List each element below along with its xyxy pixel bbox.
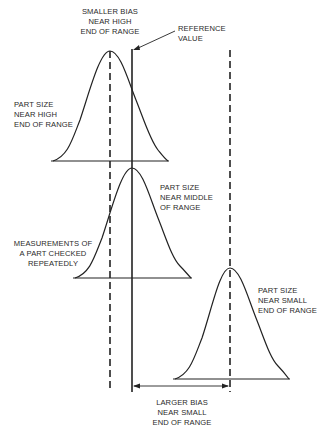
bias-arrowhead-right	[222, 384, 229, 389]
label-larger-bias: LARGER BIAS NEAR SMALL END OF RANGE	[148, 398, 216, 428]
label-measurements: MEASUREMENTS OF A PART CHECKED REPEATEDL…	[10, 239, 96, 269]
label-part-size-high: PART SIZE NEAR HIGH END OF RANGE	[14, 100, 73, 130]
label-smaller-bias: SMALLER BIAS NEAR HIGH END OF RANGE	[78, 7, 142, 37]
label-part-size-middle: PART SIZE NEAR MIDDLE OF RANGE	[160, 183, 213, 213]
bias-diagram	[0, 0, 329, 437]
distribution-curve-small	[175, 268, 289, 379]
reference-arrowhead	[133, 45, 140, 50]
label-part-size-small: PART SIZE NEAR SMALL END OF RANGE	[258, 286, 317, 316]
bias-arrowhead-left	[133, 384, 140, 389]
label-reference-value: REFERENCE VALUE	[178, 24, 226, 44]
